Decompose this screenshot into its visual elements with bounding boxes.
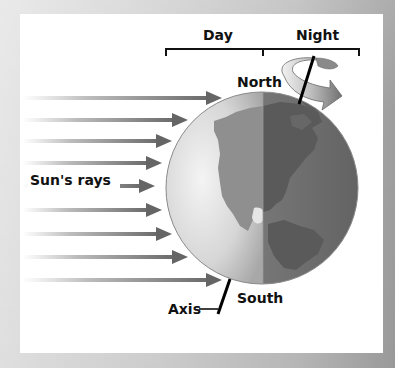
earth-globe bbox=[160, 80, 383, 300]
ray-arrow bbox=[22, 156, 162, 170]
ray-arrow bbox=[22, 227, 172, 241]
north-label: North bbox=[237, 74, 282, 90]
ray-arrow bbox=[22, 203, 162, 217]
suns-rays-label: Sun's rays bbox=[30, 172, 111, 188]
night-label: Night bbox=[296, 27, 340, 43]
south-label: South bbox=[237, 290, 283, 306]
axis-line-south bbox=[218, 279, 230, 314]
axis-label: Axis bbox=[168, 301, 201, 317]
ray-arrow bbox=[22, 273, 222, 287]
ray-arrow bbox=[22, 250, 188, 264]
day-label: Day bbox=[203, 27, 233, 43]
earth-rotation-diagram: Day Night bbox=[0, 0, 395, 368]
ray-arrow bbox=[22, 113, 188, 127]
day-night-bracket bbox=[166, 49, 359, 56]
ray-arrow bbox=[22, 134, 172, 148]
ray-arrow bbox=[22, 91, 222, 105]
